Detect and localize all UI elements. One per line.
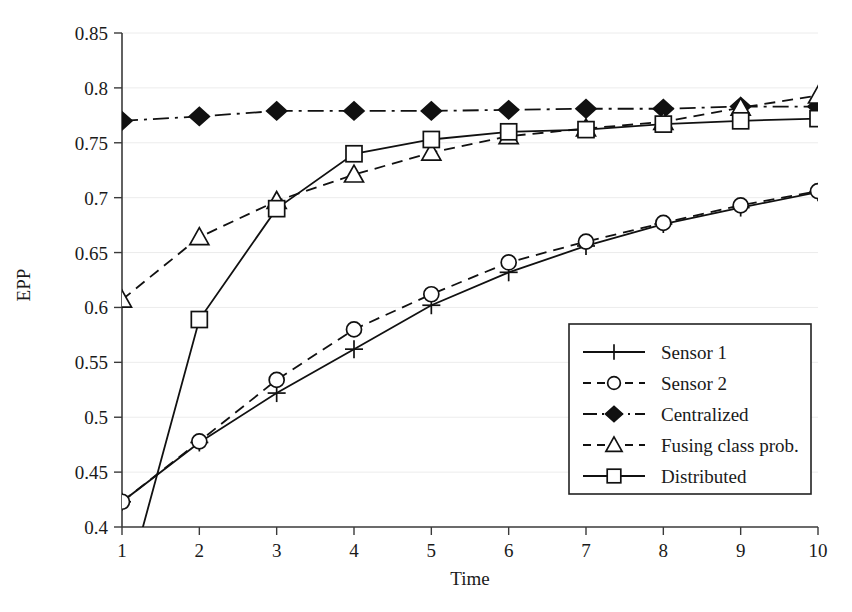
y-tick-label: 0.75 bbox=[75, 133, 108, 154]
y-tick-label: 0.45 bbox=[75, 462, 108, 483]
marker-circle bbox=[501, 255, 516, 270]
x-tick-label: 2 bbox=[195, 540, 205, 561]
y-axis-title: EPP bbox=[13, 269, 34, 302]
marker-square bbox=[733, 113, 749, 129]
marker-square bbox=[191, 312, 207, 328]
marker-circle bbox=[424, 287, 439, 302]
marker-square bbox=[607, 469, 621, 483]
y-tick-label: 0.55 bbox=[75, 352, 108, 373]
y-tick-label: 0.7 bbox=[84, 188, 108, 209]
marker-square bbox=[578, 122, 594, 138]
line-chart: 0.40.450.50.550.60.650.70.750.80.85 1234… bbox=[0, 0, 852, 612]
marker-circle bbox=[269, 372, 284, 387]
marker-square bbox=[501, 124, 517, 140]
marker-diamond bbox=[189, 107, 209, 125]
chart-figure: 0.40.450.50.550.60.650.70.750.80.85 1234… bbox=[0, 0, 852, 612]
marker-diamond bbox=[267, 102, 287, 120]
x-tick-label: 10 bbox=[809, 540, 828, 561]
x-tick-label: 5 bbox=[427, 540, 437, 561]
marker-diamond bbox=[112, 112, 132, 130]
marker-circle bbox=[347, 322, 362, 337]
y-axis-ticks bbox=[114, 33, 122, 527]
marker-triangle bbox=[113, 290, 132, 307]
x-tick-label: 8 bbox=[659, 540, 669, 561]
legend-label: Distributed bbox=[661, 466, 747, 487]
marker-circle bbox=[811, 184, 826, 199]
marker-circle bbox=[192, 434, 207, 449]
x-axis-ticks bbox=[122, 527, 818, 535]
legend-label: Sensor 2 bbox=[661, 373, 727, 394]
y-axis-tick-labels: 0.40.450.50.550.60.650.70.750.80.85 bbox=[75, 23, 109, 538]
marker-square bbox=[346, 146, 362, 162]
x-axis-tick-labels: 12345678910 bbox=[117, 540, 827, 561]
series-line bbox=[122, 107, 818, 121]
y-tick-label: 0.85 bbox=[75, 23, 108, 44]
marker-triangle bbox=[190, 228, 209, 245]
marker-square bbox=[269, 201, 285, 217]
series-3 bbox=[112, 98, 828, 130]
marker-square bbox=[423, 131, 439, 147]
y-tick-label: 0.8 bbox=[84, 78, 108, 99]
legend-label: Centralized bbox=[661, 404, 749, 425]
marker-diamond bbox=[344, 102, 364, 120]
x-tick-label: 9 bbox=[736, 540, 746, 561]
x-tick-label: 7 bbox=[581, 540, 591, 561]
y-tick-label: 0.65 bbox=[75, 243, 108, 264]
marker-plus bbox=[345, 340, 363, 358]
marker-circle bbox=[733, 198, 748, 213]
marker-square bbox=[655, 116, 671, 132]
y-tick-label: 0.6 bbox=[84, 297, 108, 318]
marker-square bbox=[810, 111, 826, 127]
marker-triangle bbox=[809, 86, 828, 103]
marker-circle bbox=[656, 215, 671, 230]
x-tick-label: 1 bbox=[117, 540, 127, 561]
x-tick-label: 6 bbox=[504, 540, 514, 561]
y-tick-label: 0.5 bbox=[84, 407, 108, 428]
marker-diamond bbox=[576, 100, 596, 118]
marker-diamond bbox=[421, 102, 441, 120]
chart-legend: Sensor 1Sensor 2CentralizedFusing class … bbox=[569, 324, 811, 494]
marker-circle bbox=[608, 377, 621, 390]
legend-label: Sensor 1 bbox=[661, 342, 727, 363]
legend-label: Fusing class prob. bbox=[661, 435, 799, 456]
x-tick-label: 3 bbox=[272, 540, 282, 561]
y-tick-label: 0.4 bbox=[84, 517, 108, 538]
marker-circle bbox=[579, 234, 594, 249]
x-tick-label: 4 bbox=[349, 540, 359, 561]
x-axis-title: Time bbox=[450, 568, 489, 589]
marker-diamond bbox=[499, 101, 519, 119]
marker-circle bbox=[115, 494, 130, 509]
series-4 bbox=[113, 86, 828, 307]
